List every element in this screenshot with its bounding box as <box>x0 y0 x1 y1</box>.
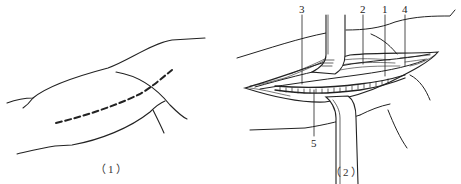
skin-fold <box>371 34 397 54</box>
panel-1-caption: （1） <box>95 160 129 176</box>
surgical-exposure-drawing <box>230 0 461 184</box>
skin-contour-lower-right <box>360 104 390 115</box>
skin-crease-right <box>410 75 430 100</box>
arm-upper-contour <box>7 38 205 103</box>
label-3: 3 <box>299 3 305 15</box>
skin-crease-lower <box>388 110 407 148</box>
panel-2-surgical-exposure: 3 2 1 4 5 （2） <box>230 0 461 184</box>
arm-lower-contour <box>17 101 165 154</box>
label-2: 2 <box>360 3 366 15</box>
label-1: 1 <box>382 3 388 15</box>
panel-1-arm-outline: （1） <box>0 0 230 184</box>
label-5: 5 <box>311 137 317 149</box>
muscle-contour <box>116 72 187 119</box>
panel-2-caption: （2） <box>330 163 364 179</box>
arm-crease-left <box>23 98 33 108</box>
skin-contour-upper-left <box>237 33 326 58</box>
arm-crease-lower <box>153 110 164 133</box>
arm-outline-drawing <box>0 0 230 184</box>
label-4: 4 <box>402 3 408 15</box>
